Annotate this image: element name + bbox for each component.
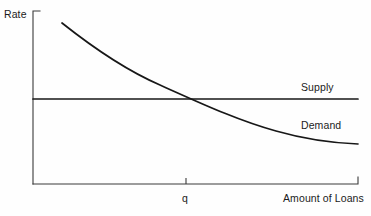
y-axis-label: Rate bbox=[4, 8, 27, 20]
demand-series-label: Demand bbox=[301, 119, 341, 131]
x-axis bbox=[33, 177, 358, 184]
y-axis bbox=[33, 11, 40, 184]
economics-loan-market-chart: Rate Amount of Loans Supply Demand q bbox=[0, 0, 371, 216]
x-tick-label-q: q bbox=[182, 192, 188, 204]
x-axis-label: Amount of Loans bbox=[283, 192, 364, 204]
supply-series-label: Supply bbox=[301, 81, 334, 93]
chart-plot-area bbox=[0, 0, 371, 216]
